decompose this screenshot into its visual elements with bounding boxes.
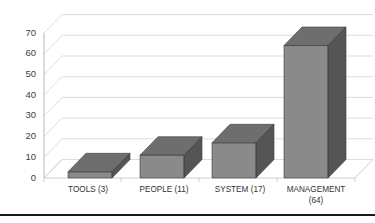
y-tick-label: 70	[25, 27, 36, 38]
depth-connector	[44, 77, 62, 96]
y-axis-tick-labels: 0 10 20 30 40 50 60 70	[25, 27, 36, 183]
depth-connector	[44, 35, 62, 54]
depth-connector	[44, 139, 62, 158]
bar-system[interactable]	[212, 124, 274, 178]
y-tick-label: 50	[25, 68, 36, 79]
depth-connector	[44, 97, 62, 116]
bar-front-face	[284, 46, 328, 179]
footer-divider	[0, 214, 375, 216]
depth-connector	[44, 56, 62, 75]
category-label-management: MANAGEMENT	[287, 185, 346, 194]
bar-tools[interactable]	[68, 153, 130, 178]
column-chart-3d: 0 10 20 30 40 50 60 70	[0, 0, 375, 223]
bar-side-face	[328, 27, 346, 178]
y-tick-label: 10	[25, 151, 36, 162]
y-tick-label: 20	[25, 130, 36, 141]
category-label-tools: TOOLS (3)	[68, 185, 108, 194]
category-label-system: SYSTEM (17)	[215, 185, 266, 194]
depth-connector	[44, 118, 62, 137]
y-tick-label: 60	[25, 47, 36, 58]
floor-right-edge	[355, 160, 373, 179]
y-tick-label: 0	[31, 172, 36, 183]
chart-container: 0 10 20 30 40 50 60 70	[0, 0, 375, 223]
floor-left-edge	[44, 160, 62, 179]
category-separators	[44, 178, 355, 182]
depth-connectors	[44, 15, 62, 178]
y-tick-label: 30	[25, 109, 36, 120]
category-label-people: PEOPLE (11)	[140, 185, 189, 194]
bar-front-face	[140, 155, 184, 178]
bar-front-face	[68, 172, 112, 178]
bar-people[interactable]	[140, 137, 202, 178]
x-axis-category-labels: TOOLS (3) PEOPLE (11) SYSTEM (17) MANAGE…	[68, 185, 345, 205]
category-label-management-line2: (64)	[309, 196, 324, 205]
y-tick-label: 40	[25, 89, 36, 100]
bar-management[interactable]	[284, 27, 346, 178]
depth-connector	[44, 15, 62, 33]
bar-front-face	[212, 143, 256, 178]
